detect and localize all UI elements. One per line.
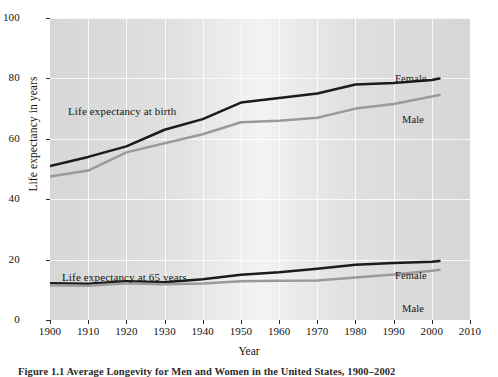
x-tick-mark [203, 320, 204, 324]
x-tick-mark [241, 320, 242, 324]
figure-caption: Figure 1.1 Average Longevity for Men and… [18, 366, 488, 377]
x-axis-title: Year [0, 345, 498, 357]
annotation-age65-female: Female [395, 270, 427, 281]
x-tick-mark [355, 320, 356, 324]
y-tick-label: 20 [0, 254, 20, 265]
y-tick-mark [46, 260, 50, 261]
y-tick-mark [46, 139, 50, 140]
y-tick-mark [46, 18, 50, 19]
y-tick-label: 60 [0, 133, 20, 144]
y-axis-title: Life expectancy in years [27, 54, 39, 214]
annotation-life-expectancy-at-birth: Life expectancy at birth [68, 105, 176, 117]
x-tick-label: 2010 [448, 326, 492, 337]
x-tick-mark [165, 320, 166, 324]
x-tick-mark [88, 320, 89, 324]
x-tick-mark [394, 320, 395, 324]
annotation-age65-male: Male [402, 303, 424, 314]
y-tick-mark [46, 199, 50, 200]
y-tick-label: 40 [0, 193, 20, 204]
y-tick-label: 0 [0, 314, 20, 325]
y-tick-label: 100 [0, 12, 20, 23]
x-tick-mark [317, 320, 318, 324]
y-tick-label: 80 [0, 72, 20, 83]
x-tick-mark [279, 320, 280, 324]
annotation-birth-female: Female [395, 73, 427, 84]
plot-area: Life expectancy at birth Female Male Lif… [50, 18, 470, 320]
x-tick-mark [126, 320, 127, 324]
annotation-birth-male: Male [402, 114, 424, 125]
y-tick-mark [46, 78, 50, 79]
x-tick-mark [432, 320, 433, 324]
x-tick-mark [470, 320, 471, 324]
annotation-life-expectancy-at-65: Life expectancy at 65 years [62, 271, 187, 283]
x-tick-mark [50, 320, 51, 324]
